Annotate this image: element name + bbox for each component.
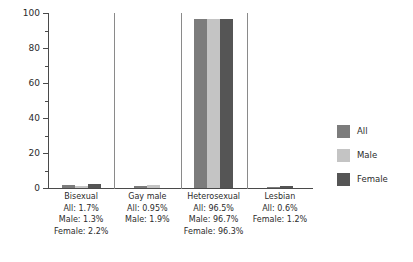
bar-chart: 020406080100 BisexualAll: 1.7%Male: 1.3%… [0, 0, 413, 262]
bar [220, 19, 233, 188]
bar [207, 19, 220, 188]
legend-swatch-icon [337, 173, 350, 186]
bar [147, 185, 160, 188]
legend-label: Female [357, 175, 388, 184]
legend-item[interactable]: Male [337, 145, 388, 165]
x-axis-labels: BisexualAll: 1.7%Male: 1.3%Female: 2.2%G… [48, 191, 313, 253]
x-group-value: Female: 2.2% [36, 226, 126, 238]
bar [134, 186, 147, 188]
bar [194, 19, 207, 188]
legend-item[interactable]: All [337, 121, 388, 141]
bar [267, 187, 280, 189]
legend-label: All [357, 127, 368, 136]
x-group-value: Female: 1.2% [235, 214, 325, 226]
x-group-value: All: 0.6% [235, 203, 325, 215]
legend-swatch-icon [337, 149, 350, 162]
chart-legend: AllMaleFemale [337, 121, 388, 193]
y-tick-label: 80 [0, 44, 40, 53]
x-group-name: Lesbian [235, 191, 325, 203]
bar [88, 184, 101, 188]
bar [75, 186, 88, 188]
bars-layer [48, 13, 313, 188]
y-tick-label: 20 [0, 149, 40, 158]
legend-swatch-icon [337, 125, 350, 138]
bar [62, 185, 75, 188]
y-tick-label: 0 [0, 184, 40, 193]
y-tick-label: 40 [0, 114, 40, 123]
legend-label: Male [357, 151, 377, 160]
y-tick-label: 100 [0, 9, 40, 18]
bar [280, 186, 293, 188]
y-tick-label: 60 [0, 79, 40, 88]
legend-item[interactable]: Female [337, 169, 388, 189]
x-group-value: Female: 96.3% [169, 226, 259, 238]
y-tick-major [43, 188, 48, 189]
x-group-label: LesbianAll: 0.6%Female: 1.2% [235, 191, 325, 226]
